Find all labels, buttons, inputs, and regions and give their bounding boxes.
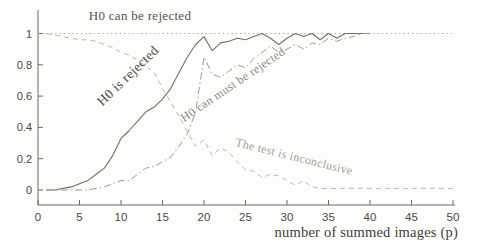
x-tick-label: 5 [76, 211, 82, 223]
y-tick-label: 0 [26, 184, 32, 196]
x-axis-label: number of summed images (p) [275, 224, 458, 241]
x-tick-label: 25 [239, 211, 252, 223]
x-tick-label: 0 [35, 211, 41, 223]
y-tick-label: 0.8 [17, 59, 32, 71]
x-tick-label: 40 [364, 211, 377, 223]
x-tick-label: 30 [281, 211, 294, 223]
figure: 0510152025303540455000.20.40.60.81 numbe… [0, 0, 481, 250]
x-tick-label: 50 [447, 211, 460, 223]
y-tick-label: 0.2 [17, 153, 32, 165]
y-tick-label: 1 [26, 28, 32, 40]
curve-the-test-is-inconclusive [46, 34, 453, 189]
y-tick-label: 0.6 [17, 90, 32, 102]
chart-canvas: 0510152025303540455000.20.40.60.81 [0, 0, 481, 250]
x-tick-label: 10 [115, 211, 128, 223]
x-tick-label: 45 [405, 211, 418, 223]
x-tick-label: 35 [322, 211, 335, 223]
y-tick-label: 0.4 [17, 121, 32, 133]
annotation-h0-can-be-rejected: H0 can be rejected [89, 8, 191, 24]
x-tick-label: 20 [198, 211, 211, 223]
x-tick-label: 15 [156, 211, 169, 223]
